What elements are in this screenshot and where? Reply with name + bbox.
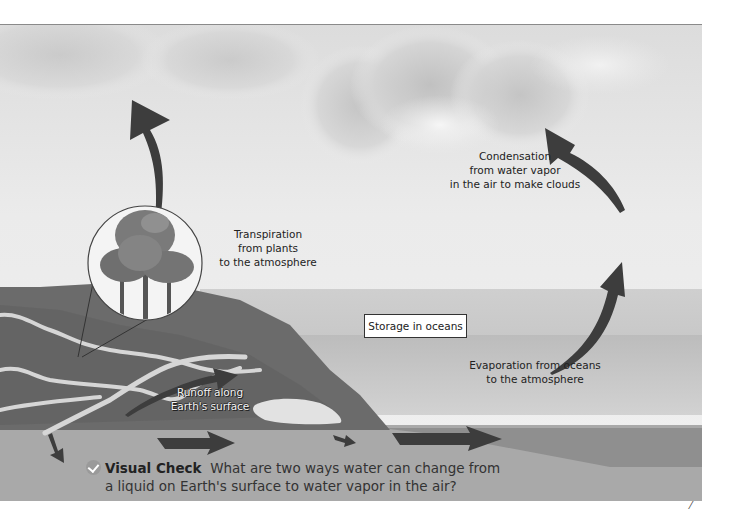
condensation-label-line2: from water vapor [440, 163, 590, 177]
transpiration-label-line2: from plants [208, 241, 328, 255]
visual-check-line1: Visual Check What are two ways water can… [86, 459, 500, 477]
evaporation-label-line1: Evaporation from oceans [460, 358, 610, 372]
transpiration-label-line3: to the atmosphere [208, 255, 328, 269]
condensation-label: Condensation from water vapor in the air… [440, 149, 590, 191]
visual-check-question-line1: What are two ways water can change from [210, 460, 500, 476]
visual-check: Visual Check What are two ways water can… [86, 459, 500, 495]
condensation-label-line1: Condensation [440, 149, 590, 163]
storage-in-oceans-label: Storage in oceans [364, 314, 467, 338]
water-cycle-figure: Transpiration from plants to the atmosph… [0, 25, 702, 501]
check-icon [86, 460, 101, 475]
runoff-label: Runoff along Earth's surface [160, 385, 260, 413]
runoff-label-line1: Runoff along [160, 385, 260, 399]
runoff-label-line2: Earth's surface [160, 399, 260, 413]
transpiration-label-line1: Transpiration [208, 227, 328, 241]
condensation-label-line3: in the air to make clouds [440, 177, 590, 191]
evaporation-label: Evaporation from oceans to the atmospher… [460, 358, 610, 386]
visual-check-question-line2: a liquid on Earth's surface to water vap… [86, 477, 500, 495]
water-cycle-scene [0, 25, 702, 501]
evaporation-label-line2: to the atmosphere [460, 372, 610, 386]
transpiration-label: Transpiration from plants to the atmosph… [208, 227, 328, 269]
page-corner-mark: ⁄ [690, 500, 692, 511]
visual-check-title: Visual Check [105, 460, 202, 476]
